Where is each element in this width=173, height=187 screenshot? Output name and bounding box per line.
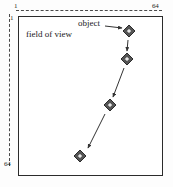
motion-arrow-1	[127, 40, 128, 51]
motion-arrow-2	[113, 68, 124, 97]
object-marker-group	[74, 25, 135, 162]
motion-arrow-3	[88, 114, 105, 148]
motion-arrow-group	[88, 40, 128, 148]
object-pointer-arrow	[105, 26, 122, 28]
pointer-arrow-group	[105, 26, 122, 28]
figure-canvas: 1 64 1 64 field of view object	[0, 0, 173, 187]
trajectory-overlay	[0, 0, 173, 187]
object-marker	[74, 150, 86, 162]
object-marker	[104, 99, 116, 111]
object-marker	[123, 25, 135, 37]
object-marker	[121, 53, 133, 65]
